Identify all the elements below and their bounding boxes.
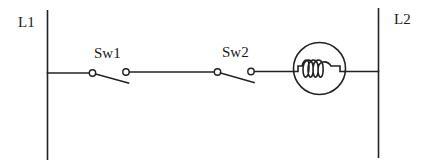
rail-label-l1: L1 — [18, 14, 35, 30]
switch-sw2-contact-right — [248, 68, 254, 74]
switch-label-sw2: Sw2 — [222, 44, 249, 60]
ladder-diagram: L1 L2 Sw1 Sw2 — [0, 0, 431, 166]
switch-sw1: Sw1 — [89, 45, 129, 83]
switch-sw2: Sw2 — [214, 44, 254, 83]
switch-sw1-blade — [96, 74, 129, 83]
lamp — [294, 43, 346, 95]
switch-label-sw1: Sw1 — [94, 45, 121, 61]
switch-sw1-contact-right — [123, 69, 129, 75]
lamp-circle — [294, 43, 346, 95]
rail-label-l2: L2 — [394, 11, 411, 27]
switch-sw2-contact-left — [214, 69, 220, 75]
switch-sw1-contact-left — [89, 70, 95, 76]
